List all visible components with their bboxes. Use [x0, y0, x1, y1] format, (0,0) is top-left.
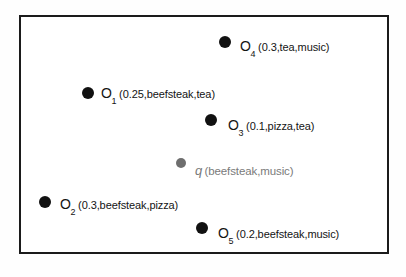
point-name-o1: O	[101, 85, 112, 101]
data-point-label-o2: O2(0.3,beefsteak,pizza)	[60, 196, 178, 215]
data-point-label-q: q(beefsteak,music)	[195, 162, 294, 178]
point-name-o3: O	[228, 117, 239, 133]
scatter-plot-figure: O4(0.3,tea,music)O1(0.25,beefsteak,tea)O…	[0, 0, 406, 277]
point-attributes-o4: (0.3,tea,music)	[258, 41, 329, 53]
data-point-label-o5: O5(0.2,beefsteak,music)	[218, 225, 339, 244]
data-point-o4[interactable]	[219, 36, 231, 48]
point-subscript-o3: 3	[239, 128, 244, 138]
point-subscript-o2: 2	[71, 207, 76, 217]
point-attributes-q: (beefsteak,music)	[204, 165, 293, 177]
plot-frame-border	[19, 15, 389, 254]
point-attributes-o2: (0.3,beefsteak,pizza)	[78, 199, 178, 211]
data-point-o5[interactable]	[196, 222, 208, 234]
data-point-q[interactable]	[176, 158, 186, 168]
point-name-o2: O	[60, 196, 71, 212]
point-subscript-o1: 1	[112, 96, 117, 106]
data-point-label-o4: O4(0.3,tea,music)	[240, 38, 329, 57]
point-attributes-o3: (0.1,pizza,tea)	[246, 120, 314, 132]
point-subscript-o5: 5	[229, 236, 234, 246]
data-point-o2[interactable]	[39, 196, 51, 208]
point-name-o5: O	[218, 225, 229, 241]
point-subscript-o4: 4	[251, 49, 256, 59]
point-attributes-o1: (0.25,beefsteak,tea)	[119, 88, 215, 100]
data-point-o1[interactable]	[82, 87, 94, 99]
point-name-q: q	[195, 163, 202, 178]
point-name-o4: O	[240, 38, 251, 54]
data-point-label-o3: O3(0.1,pizza,tea)	[228, 117, 314, 136]
point-attributes-o5: (0.2,beefsteak,music)	[236, 228, 339, 240]
data-point-label-o1: O1(0.25,beefsteak,tea)	[101, 85, 215, 104]
data-point-o3[interactable]	[205, 114, 217, 126]
